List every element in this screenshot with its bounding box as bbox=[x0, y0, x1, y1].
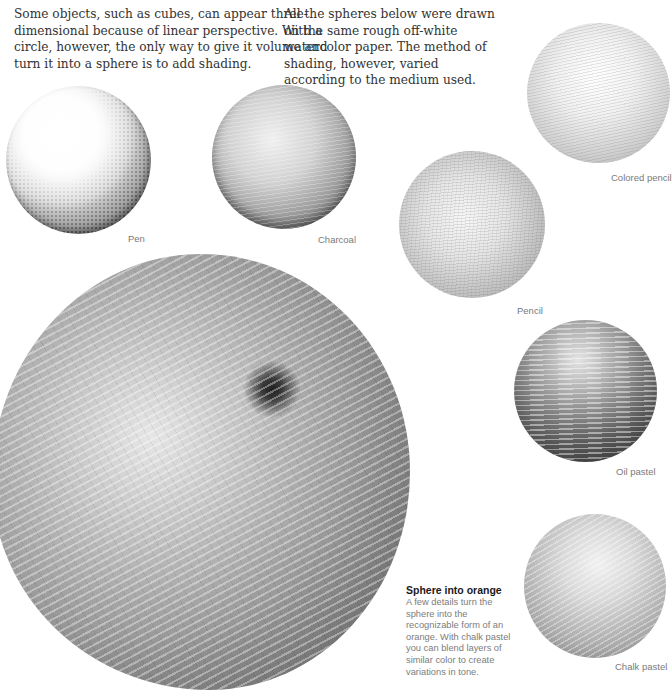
oil-pastel-sphere-illustration bbox=[514, 320, 657, 462]
pen-sphere-illustration bbox=[6, 86, 151, 234]
charcoal-sphere-illustration bbox=[212, 85, 356, 229]
chalk-pastel-label: Chalk pastel bbox=[615, 661, 667, 672]
pencil-sphere-illustration bbox=[399, 151, 545, 298]
chalk-pastel-sphere-illustration bbox=[524, 514, 666, 658]
pen-label: Pen bbox=[128, 233, 145, 244]
oil-pastel-label: Oil pastel bbox=[616, 466, 656, 477]
colored-pencil-sphere-illustration bbox=[527, 23, 670, 163]
caption-body: A few details turn the sphere into the r… bbox=[406, 597, 518, 678]
pencil-label: Pencil bbox=[517, 305, 543, 316]
charcoal-label: Charcoal bbox=[318, 234, 356, 245]
orange-illustration bbox=[0, 254, 410, 690]
intro-paragraph-left: Some objects, such as cubes, can appear … bbox=[14, 6, 329, 72]
orange-caption: Sphere into orange A few details turn th… bbox=[406, 584, 518, 678]
intro-paragraph-right: All the spheres below were drawn on the … bbox=[284, 6, 499, 89]
caption-title: Sphere into orange bbox=[406, 584, 518, 597]
colored-pencil-label: Colored pencil bbox=[611, 172, 672, 183]
